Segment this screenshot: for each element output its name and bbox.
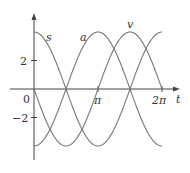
y-tick-label-2: 2 xyxy=(20,55,27,68)
x-axis-arrow-icon xyxy=(173,87,180,92)
t-axis-label: t xyxy=(176,93,181,106)
origin-label: 0 xyxy=(23,93,30,106)
a-curve-label: a xyxy=(80,31,87,44)
y-tick-label-neg2: −2 xyxy=(12,112,28,125)
pi-label: π xyxy=(93,94,102,107)
two-pi-label: 2π xyxy=(151,94,167,107)
chart-svg: 0 π 2π t 2 −2 s a v xyxy=(0,0,190,173)
y-axis-arrow-icon xyxy=(32,13,37,20)
v-curve-label: v xyxy=(127,18,134,31)
chart-figure: 0 π 2π t 2 −2 s a v xyxy=(0,0,190,173)
s-curve-label: s xyxy=(46,31,52,44)
